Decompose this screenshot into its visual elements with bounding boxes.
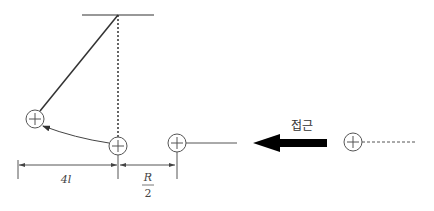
hanging-charge bbox=[109, 137, 127, 155]
deflection-arrow bbox=[43, 126, 109, 143]
approaching-charge bbox=[344, 133, 362, 151]
approach-label: 접근 bbox=[291, 119, 313, 133]
distance-r-denominator: 2 bbox=[145, 187, 152, 200]
fixed-charge bbox=[168, 134, 186, 152]
approach-arrow-icon bbox=[253, 134, 327, 152]
distance-r-numerator: R bbox=[143, 171, 152, 184]
pendulum-diagram: 접근 4l R 2 bbox=[0, 0, 434, 211]
pendulum-string bbox=[40, 15, 118, 111]
deflected-charge bbox=[26, 110, 44, 128]
distance-4l-label: 4l bbox=[60, 173, 72, 186]
